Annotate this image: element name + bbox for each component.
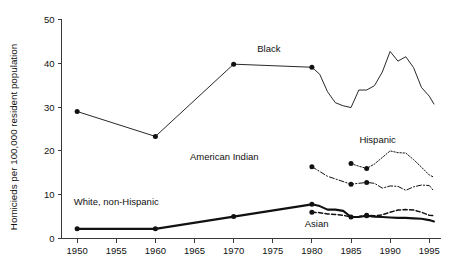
data-point-american-indian [349, 182, 354, 187]
data-point-white-non-hispanic [75, 226, 80, 231]
x-tick-label: 1955 [106, 245, 127, 256]
data-point-white-non-hispanic [231, 214, 236, 219]
x-tick-label: 1995 [419, 245, 440, 256]
x-tick-label: 1980 [301, 245, 322, 256]
series-line-american-indian [312, 167, 434, 192]
series-labels-group: BlackHispanicAmerican IndianWhite, non-H… [74, 43, 396, 229]
series-label-white-non-hispanic: White, non-Hispanic [74, 196, 159, 207]
y-tick-label: 20 [44, 145, 55, 156]
y-axis-ticks: 01020304050 [44, 14, 62, 244]
data-point-white-non-hispanic [309, 202, 314, 207]
data-point-black [75, 109, 80, 114]
chart-canvas: 01020304050 1950195519601965197019751980… [0, 0, 453, 275]
data-point-white-non-hispanic [153, 226, 158, 231]
series-line-black [77, 51, 434, 136]
data-point-asian [349, 215, 354, 220]
data-point-black [309, 65, 314, 70]
x-tick-label: 1990 [380, 245, 401, 256]
data-point-asian [309, 210, 314, 215]
data-point-asian [364, 213, 369, 218]
x-tick-label: 1960 [145, 245, 166, 256]
series-label-asian: Asian [305, 218, 329, 229]
series-label-hispanic: Hispanic [359, 134, 396, 145]
data-point-american-indian [309, 164, 314, 169]
series-label-black: Black [257, 43, 280, 54]
data-point-black [231, 62, 236, 67]
data-point-hispanic [349, 161, 354, 166]
series-label-american-indian: American Indian [190, 151, 259, 162]
x-tick-label: 1965 [184, 245, 205, 256]
y-tick-label: 50 [44, 14, 55, 25]
y-axis-title: Homicieds per 100,000 resident populatio… [8, 44, 19, 230]
x-tick-label: 1975 [262, 245, 283, 256]
y-tick-label: 40 [44, 58, 55, 69]
x-tick-label: 1950 [67, 245, 88, 256]
data-point-hispanic [364, 166, 369, 171]
x-axis-ticks: 1950195519601965197019751980198519901995 [67, 239, 440, 256]
series-line-white-non-hispanic [77, 204, 434, 229]
data-point-american-indian [364, 180, 369, 185]
homicide-rate-chart: 01020304050 1950195519601965197019751980… [0, 0, 453, 275]
y-tick-label: 10 [44, 189, 55, 200]
y-tick-label: 30 [44, 102, 55, 113]
data-point-black [153, 134, 158, 139]
y-tick-label: 0 [49, 233, 54, 244]
series-line-asian [312, 210, 434, 217]
x-tick-label: 1970 [223, 245, 244, 256]
x-tick-label: 1985 [340, 245, 361, 256]
series-line-hispanic [351, 151, 434, 177]
